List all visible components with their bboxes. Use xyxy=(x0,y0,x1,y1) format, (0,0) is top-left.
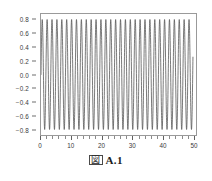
y-tick-label: 0.8 xyxy=(20,15,29,22)
x-tick-mark-major xyxy=(40,136,41,140)
x-tick-mark-major xyxy=(132,136,133,140)
y-tick-mark xyxy=(32,130,36,131)
y-tick-label: 0.6 xyxy=(20,29,29,36)
x-tick-mark-minor xyxy=(89,136,90,139)
figure-caption-label: A.1 xyxy=(106,154,123,166)
x-tick-mark-minor xyxy=(95,136,96,139)
oscillation-line xyxy=(41,19,193,129)
x-tick-mark-minor xyxy=(139,136,140,139)
x-tick-mark-minor xyxy=(151,136,152,139)
x-tick-mark-major xyxy=(194,136,195,140)
line-chart-svg xyxy=(41,14,196,135)
y-tick-mark xyxy=(32,46,36,47)
y-tick-label: −0.2 xyxy=(16,85,29,92)
x-tick-mark-minor xyxy=(120,136,121,139)
x-tick-mark-minor xyxy=(182,136,183,139)
x-tick-label: 50 xyxy=(190,142,197,149)
y-tick-label: −0.6 xyxy=(16,113,29,120)
x-tick-mark-minor xyxy=(188,136,189,139)
x-tick-mark-minor xyxy=(58,136,59,139)
x-tick-mark-minor xyxy=(52,136,53,139)
y-tick-mark xyxy=(32,88,36,89)
x-tick-mark-minor xyxy=(83,136,84,139)
figure-container: 0.80.60.40.20.0−0.2−0.4−0.6−0.8 01020304… xyxy=(0,0,212,181)
y-tick-mark xyxy=(32,116,36,117)
x-tick-mark-minor xyxy=(145,136,146,139)
x-tick-mark-minor xyxy=(108,136,109,139)
plot-area xyxy=(40,13,197,136)
x-tick-mark-minor xyxy=(126,136,127,139)
y-tick-mark xyxy=(32,102,36,103)
figure-caption: 図A.1 xyxy=(0,154,212,166)
y-tick-mark xyxy=(32,32,36,33)
y-tick-label: 0.2 xyxy=(20,57,29,64)
x-tick-label: 40 xyxy=(160,142,167,149)
y-axis: 0.80.60.40.20.0−0.2−0.4−0.6−0.8 xyxy=(0,13,36,136)
x-tick-label: 30 xyxy=(129,142,136,149)
y-tick-mark xyxy=(32,74,36,75)
x-tick-label: 10 xyxy=(67,142,74,149)
x-tick-mark-minor xyxy=(65,136,66,139)
x-tick-mark-major xyxy=(163,136,164,140)
x-tick-label: 0 xyxy=(38,142,42,149)
y-tick-mark xyxy=(32,18,36,19)
y-tick-label: −0.8 xyxy=(16,127,29,134)
x-tick-mark-minor xyxy=(175,136,176,139)
x-tick-mark-minor xyxy=(46,136,47,139)
y-tick-label: 0.4 xyxy=(20,43,29,50)
x-tick-mark-minor xyxy=(114,136,115,139)
x-tick-label: 20 xyxy=(98,142,105,149)
x-tick-mark-major xyxy=(71,136,72,140)
x-tick-mark-minor xyxy=(157,136,158,139)
figure-marker-glyph: 図 xyxy=(89,155,102,165)
y-tick-label: 0.0 xyxy=(20,71,29,78)
x-tick-mark-minor xyxy=(169,136,170,139)
y-tick-mark xyxy=(32,60,36,61)
x-tick-mark-minor xyxy=(77,136,78,139)
x-tick-mark-major xyxy=(102,136,103,140)
y-tick-label: −0.4 xyxy=(16,99,29,106)
